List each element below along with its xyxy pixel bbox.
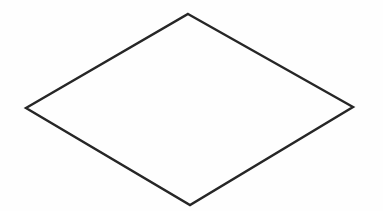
diagram-svg xyxy=(0,0,383,211)
diagram-canvas xyxy=(0,0,383,211)
decision-diamond-shape xyxy=(26,14,353,205)
